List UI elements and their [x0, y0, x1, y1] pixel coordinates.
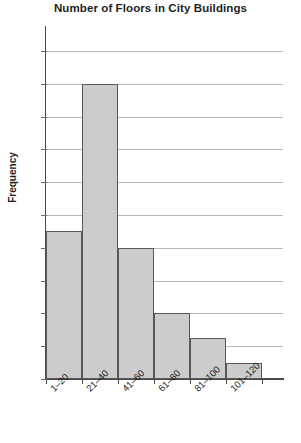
x-axis-tick [226, 380, 227, 384]
x-axis-tick [46, 380, 47, 384]
histogram-bar [82, 84, 118, 379]
y-axis-title: Frequency [7, 138, 18, 218]
chart-title: Number of Floors in City Buildings [0, 2, 301, 14]
x-axis-tick [82, 380, 83, 384]
histogram-bar [118, 248, 154, 379]
x-axis-tick [154, 380, 155, 384]
histogram-chart: Number of Floors in City Buildings Frequ… [0, 0, 301, 443]
x-axis-tick [262, 380, 263, 384]
x-axis-tick [118, 380, 119, 384]
bars-layer [46, 51, 283, 379]
x-axis-tick [190, 380, 191, 384]
histogram-bar [46, 231, 82, 379]
